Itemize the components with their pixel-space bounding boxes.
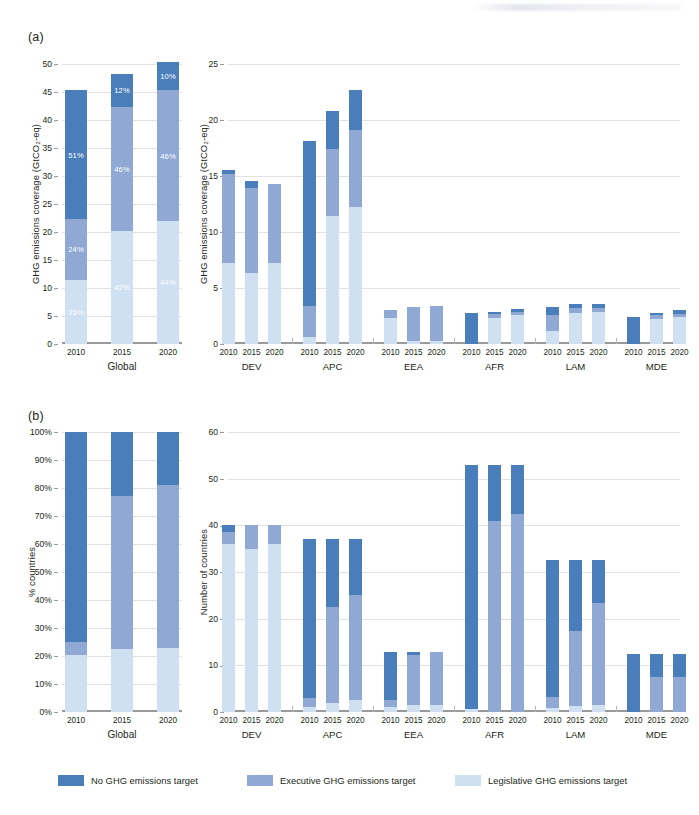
bar-segment-executive-ghg-emissions-target[interactable] (65, 642, 87, 655)
bar-segment-no-ghg-emissions-target[interactable] (569, 560, 582, 631)
bar-segment-executive-ghg-emissions-target[interactable] (546, 697, 559, 708)
bar-segment-no-ghg-emissions-target[interactable] (627, 317, 640, 344)
bar-segment-no-ghg-emissions-target[interactable] (157, 432, 179, 485)
bar-segment-legislative-ghg-emissions-target[interactable] (111, 649, 133, 712)
bar-apc-2010[interactable] (303, 432, 316, 712)
bar-segment-legislative-ghg-emissions-target[interactable] (546, 331, 559, 344)
bar-segment-no-ghg-emissions-target[interactable] (650, 654, 663, 677)
bar-eea-2010[interactable] (384, 64, 397, 344)
bar-afr-2020[interactable] (511, 432, 524, 712)
bar-lam-2010[interactable] (546, 64, 559, 344)
bar-segment-legislative-ghg-emissions-target[interactable] (592, 312, 605, 344)
bar-2015[interactable] (111, 432, 133, 712)
bar-mde-2015[interactable] (650, 432, 663, 712)
bar-segment-no-ghg-emissions-target[interactable] (326, 111, 339, 149)
bar-segment-legislative-ghg-emissions-target[interactable] (488, 318, 501, 344)
bar-segment-no-ghg-emissions-target[interactable] (111, 74, 133, 106)
bar-segment-executive-ghg-emissions-target[interactable] (349, 595, 362, 700)
bar-segment-executive-ghg-emissions-target[interactable] (546, 315, 559, 331)
bar-segment-executive-ghg-emissions-target[interactable] (268, 184, 281, 264)
bar-segment-legislative-ghg-emissions-target[interactable] (303, 337, 316, 344)
bar-segment-executive-ghg-emissions-target[interactable] (407, 307, 420, 341)
bar-lam-2010[interactable] (546, 432, 559, 712)
bar-segment-legislative-ghg-emissions-target[interactable] (407, 341, 420, 344)
bar-segment-no-ghg-emissions-target[interactable] (511, 465, 524, 514)
bar-afr-2010[interactable] (465, 64, 478, 344)
bar-2010[interactable] (65, 432, 87, 712)
bar-segment-executive-ghg-emissions-target[interactable] (511, 514, 524, 712)
bar-mde-2010[interactable] (627, 64, 640, 344)
bar-segment-no-ghg-emissions-target[interactable] (569, 304, 582, 307)
bar-segment-no-ghg-emissions-target[interactable] (245, 181, 258, 189)
bar-mde-2015[interactable] (650, 64, 663, 344)
bar-segment-executive-ghg-emissions-target[interactable] (268, 525, 281, 544)
bar-afr-2010[interactable] (465, 432, 478, 712)
bar-eea-2020[interactable] (430, 432, 443, 712)
bar-segment-legislative-ghg-emissions-target[interactable] (511, 315, 524, 344)
bar-apc-2020[interactable] (349, 64, 362, 344)
bar-segment-executive-ghg-emissions-target[interactable] (430, 306, 443, 341)
bar-segment-legislative-ghg-emissions-target[interactable] (65, 280, 87, 344)
bar-segment-legislative-ghg-emissions-target[interactable] (349, 700, 362, 712)
bar-segment-no-ghg-emissions-target[interactable] (488, 312, 501, 314)
bar-segment-legislative-ghg-emissions-target[interactable] (268, 544, 281, 712)
bar-afr-2015[interactable] (488, 64, 501, 344)
bar-segment-legislative-ghg-emissions-target[interactable] (157, 221, 179, 344)
bar-segment-executive-ghg-emissions-target[interactable] (303, 306, 316, 337)
bar-2020[interactable] (157, 432, 179, 712)
bar-segment-executive-ghg-emissions-target[interactable] (511, 312, 524, 315)
bar-dev-2010[interactable] (222, 64, 235, 344)
bar-segment-no-ghg-emissions-target[interactable] (65, 432, 87, 642)
bar-lam-2020[interactable] (592, 64, 605, 344)
bar-segment-executive-ghg-emissions-target[interactable] (326, 607, 339, 703)
bar-segment-no-ghg-emissions-target[interactable] (592, 560, 605, 602)
bar-lam-2015[interactable] (569, 432, 582, 712)
bar-segment-no-ghg-emissions-target[interactable] (222, 525, 235, 532)
bar-segment-executive-ghg-emissions-target[interactable] (673, 314, 686, 317)
bar-segment-no-ghg-emissions-target[interactable] (65, 90, 87, 219)
bar-segment-executive-ghg-emissions-target[interactable] (326, 149, 339, 216)
bar-segment-legislative-ghg-emissions-target[interactable] (222, 263, 235, 344)
bar-segment-no-ghg-emissions-target[interactable] (222, 170, 235, 173)
bar-2010[interactable]: 25%24%51% (65, 64, 87, 344)
bar-segment-no-ghg-emissions-target[interactable] (650, 313, 663, 316)
bar-apc-2020[interactable] (349, 432, 362, 712)
bar-segment-legislative-ghg-emissions-target[interactable] (384, 707, 397, 712)
bar-segment-executive-ghg-emissions-target[interactable] (222, 532, 235, 544)
bar-segment-executive-ghg-emissions-target[interactable] (592, 308, 605, 312)
bar-apc-2015[interactable] (326, 64, 339, 344)
bar-segment-executive-ghg-emissions-target[interactable] (673, 677, 686, 712)
bar-segment-legislative-ghg-emissions-target[interactable] (157, 648, 179, 712)
bar-segment-no-ghg-emissions-target[interactable] (488, 465, 501, 521)
bar-segment-legislative-ghg-emissions-target[interactable] (326, 703, 339, 712)
bar-segment-no-ghg-emissions-target[interactable] (384, 652, 397, 700)
bar-segment-no-ghg-emissions-target[interactable] (465, 313, 478, 344)
bar-segment-legislative-ghg-emissions-target[interactable] (546, 708, 559, 712)
bar-segment-no-ghg-emissions-target[interactable] (511, 309, 524, 312)
bar-segment-legislative-ghg-emissions-target[interactable] (407, 705, 420, 712)
bar-dev-2015[interactable] (245, 64, 258, 344)
bar-segment-executive-ghg-emissions-target[interactable] (65, 219, 87, 279)
bar-segment-legislative-ghg-emissions-target[interactable] (65, 655, 87, 712)
bar-segment-executive-ghg-emissions-target[interactable] (407, 655, 420, 704)
bar-segment-legislative-ghg-emissions-target[interactable] (430, 705, 443, 712)
bar-segment-legislative-ghg-emissions-target[interactable] (245, 549, 258, 712)
bar-segment-executive-ghg-emissions-target[interactable] (430, 652, 443, 704)
bar-segment-executive-ghg-emissions-target[interactable] (650, 677, 663, 712)
bar-segment-legislative-ghg-emissions-target[interactable] (384, 318, 397, 344)
bar-segment-no-ghg-emissions-target[interactable] (349, 90, 362, 130)
bar-eea-2020[interactable] (430, 64, 443, 344)
bar-segment-executive-ghg-emissions-target[interactable] (384, 310, 397, 318)
bar-segment-legislative-ghg-emissions-target[interactable] (465, 709, 478, 712)
bar-segment-executive-ghg-emissions-target[interactable] (111, 107, 133, 231)
bar-dev-2010[interactable] (222, 432, 235, 712)
bar-segment-no-ghg-emissions-target[interactable] (673, 310, 686, 313)
bar-segment-executive-ghg-emissions-target[interactable] (650, 315, 663, 318)
bar-lam-2015[interactable] (569, 64, 582, 344)
bar-segment-executive-ghg-emissions-target[interactable] (592, 603, 605, 706)
bar-eea-2010[interactable] (384, 432, 397, 712)
bar-segment-no-ghg-emissions-target[interactable] (592, 304, 605, 307)
bar-segment-no-ghg-emissions-target[interactable] (303, 539, 316, 698)
bar-segment-executive-ghg-emissions-target[interactable] (157, 90, 179, 220)
bar-segment-legislative-ghg-emissions-target[interactable] (650, 319, 663, 344)
